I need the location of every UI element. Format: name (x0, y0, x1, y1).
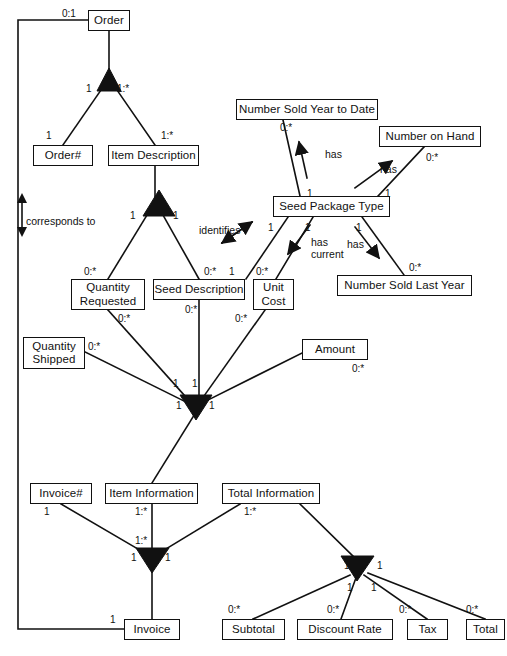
entity-label: Quantity Shipped (32, 340, 76, 367)
entity-label: Invoice# (39, 487, 83, 501)
entity-unit_cost[interactable]: Unit Cost (253, 279, 294, 310)
cardinality-c_spt_onhand: 1 (385, 188, 391, 199)
cardinality-c_itemdesc_top: 1:* (161, 130, 173, 141)
cardinality-c_inv_tri_l: 1 (131, 552, 137, 563)
verb-label-v_has_lastyr: has (347, 238, 364, 250)
entity-label: Invoice (133, 623, 170, 637)
entity-invoice_num[interactable]: Invoice# (30, 483, 92, 504)
entity-label: Amount (315, 343, 355, 357)
cardinality-c_tax: 0:* (399, 604, 411, 615)
edge-totalinfo-triangle3 (161, 504, 240, 552)
entity-label: Item Information (109, 487, 194, 501)
cardinality-c_totalinfo_top: 1:* (244, 506, 256, 517)
entity-num_on_hand[interactable]: Number on Hand (379, 126, 481, 147)
edge-totalinfo-triangle4 (300, 504, 355, 558)
relationship-triangle-iteminfo-spine (180, 395, 212, 420)
cardinality-c_spine_seed: 1 (192, 378, 198, 389)
verb-label-v_corresponds_to: corresponds to (26, 215, 95, 227)
entity-quantity_shipped[interactable]: Quantity Shipped (23, 337, 85, 369)
edge-ordernum-triangle1 (63, 90, 101, 145)
cardinality-c_unit_cost_bot: 0:* (235, 313, 247, 324)
entity-order[interactable]: Order (88, 10, 130, 31)
entity-total[interactable]: Total (466, 619, 505, 640)
entity-label: Seed Description (154, 283, 243, 297)
edge-spine-iteminformation (152, 412, 196, 483)
entity-label: Order# (45, 149, 81, 163)
cardinality-c_itemdesc_tri_r: 1 (173, 210, 179, 221)
entity-label: Tax (418, 623, 436, 637)
entity-num_sold_ytd[interactable]: Number Sold Year to Date (236, 99, 378, 120)
entity-subtotal[interactable]: Subtotal (222, 619, 285, 640)
edge-qtyreq-triangle2 (108, 215, 147, 279)
cardinality-c_tot_tri_l: 1 (344, 560, 350, 571)
cardinality-c_ytd_top: 0:* (280, 122, 292, 133)
verb-label-v_has_current: has current (311, 236, 344, 260)
edge-spt-numsoldlastyear (362, 217, 404, 275)
cardinality-c_tot_tri_r: 1 (377, 560, 383, 571)
cardinality-c_lastyr_top: 0:* (409, 262, 421, 273)
cardinality-c_qty_ship: 0:* (88, 341, 100, 352)
cardinality-c_order_right: 1:* (117, 83, 129, 94)
entity-order_num[interactable]: Order# (33, 145, 93, 166)
entity-label: Subtotal (232, 623, 275, 637)
edge-order-invoice (18, 20, 124, 629)
entity-label: Number Sold Last Year (344, 279, 464, 293)
entity-tax[interactable]: Tax (407, 619, 448, 640)
entity-label: Order (94, 14, 124, 28)
cardinality-c_tot_tri_l2: 1 (347, 582, 353, 593)
cardinality-c_invoice_bot: 1 (110, 614, 116, 625)
cardinality-c_spine_qreq: 1 (173, 378, 179, 389)
cardinality-c_invoicenum: 1 (44, 506, 50, 517)
entity-num_sold_last_yr[interactable]: Number Sold Last Year (337, 275, 472, 296)
cardinality-c_qty_req_bot: 0:* (118, 313, 130, 324)
cardinality-c_seed_desc_top: 0:* (204, 266, 216, 277)
diagram-canvas: OrderOrder#Item DescriptionQuantity Requ… (0, 0, 507, 656)
cardinality-c_itemdesc_tri_l: 1 (130, 210, 136, 221)
cardinality-c_tot_tri_r2: 1 (371, 582, 377, 593)
cardinality-c_inv_tri_r: 1 (165, 552, 171, 563)
cardinality-c_onhand_bot: 0:* (426, 152, 438, 163)
cardinality-c_subtotal: 0:* (228, 604, 240, 615)
cardinality-c_order_left: 1 (86, 83, 92, 94)
entity-invoice[interactable]: Invoice (124, 619, 180, 640)
entity-item_information[interactable]: Item Information (105, 483, 198, 504)
cardinality-c_iteminfo_mid: 1:* (135, 535, 147, 546)
edge-invoicenum-triangle3 (61, 504, 143, 552)
entity-seed_package_type[interactable]: Seed Package Type (273, 196, 390, 217)
verb-label-v_has_onhand: has (380, 163, 397, 175)
cardinality-c_total: 0:* (466, 604, 478, 615)
edge-seeddesc-triangle2 (163, 215, 199, 279)
entity-discount_rate[interactable]: Discount Rate (297, 619, 393, 640)
cardinality-c_spt_lastyr: 1 (356, 222, 362, 233)
cardinality-c_amount_bot: 0:* (352, 363, 364, 374)
entity-label: Number Sold Year to Date (239, 103, 375, 117)
entity-label: Unit Cost (261, 281, 285, 308)
arrow-has-ytd (299, 142, 307, 178)
entity-label: Item Description (111, 149, 196, 163)
edge-qtyshipped-spine (85, 352, 184, 401)
entity-quantity_requested[interactable]: Quantity Requested (71, 279, 145, 310)
entity-label: Number on Hand (386, 130, 475, 144)
verb-label-v_has_ytd: has (325, 148, 342, 160)
cardinality-c_ordernum: 1 (46, 130, 52, 141)
entity-label: Seed Package Type (279, 200, 383, 214)
entity-label: Discount Rate (308, 623, 382, 637)
relationship-triangle-itemdescription (143, 190, 175, 216)
cardinality-c_spt_ytd: 1 (307, 188, 313, 199)
cardinality-c_seed_desc_bot: 0:* (185, 304, 197, 315)
entity-total_information[interactable]: Total Information (222, 483, 320, 504)
cardinality-c_unit_cost_top: 0:* (256, 266, 268, 277)
edge-itemdesc-triangle1 (117, 90, 155, 145)
entity-item_description[interactable]: Item Description (108, 145, 199, 166)
cardinality-c_spt_unitcost: 1 (305, 222, 311, 233)
verb-label-v_identifies: identifies (199, 224, 240, 236)
cardinality-c_seed_desc_ident: 1 (229, 266, 235, 277)
entity-label: Total (473, 623, 498, 637)
entity-seed_description[interactable]: Seed Description (153, 279, 245, 300)
edge-amount-spine (206, 353, 302, 401)
cardinality-c_spt_identifies: 1 (268, 222, 274, 233)
cardinality-c_discount: 0:* (327, 604, 339, 615)
cardinality-c_qty_req: 0:* (84, 266, 96, 277)
entity-amount[interactable]: Amount (302, 339, 368, 360)
entity-label: Quantity Requested (80, 281, 137, 308)
